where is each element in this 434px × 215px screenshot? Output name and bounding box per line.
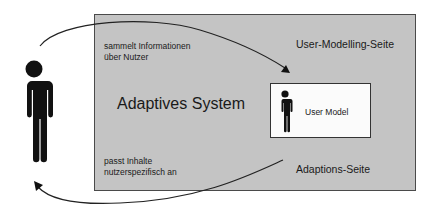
- adapt-arrow: [38, 160, 283, 203]
- arrow-head-icon: [34, 181, 43, 191]
- collect-arrow: [40, 22, 285, 68]
- flow-arrows: [0, 0, 434, 215]
